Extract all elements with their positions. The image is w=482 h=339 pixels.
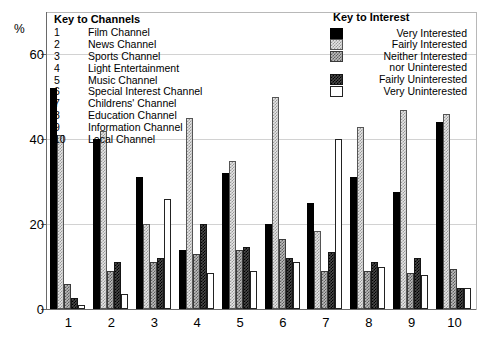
bar-4-series-0 xyxy=(179,250,186,309)
bar-10-series-3 xyxy=(457,288,464,309)
y-tick-label-0: 0 xyxy=(10,302,44,317)
bar-4-series-4 xyxy=(207,273,214,309)
bar-7-series-2 xyxy=(321,271,328,309)
x-tick-label-6: 6 xyxy=(263,315,303,330)
bar-6-series-3 xyxy=(286,258,293,309)
x-tick-label-7: 7 xyxy=(306,315,346,330)
bar-chart: % 0204060 12345678910 Key to Channels 1F… xyxy=(0,0,482,339)
legend-swatch-white xyxy=(330,86,343,97)
bar-9-series-3 xyxy=(414,258,421,309)
x-tick-label-8: 8 xyxy=(349,315,389,330)
bar-1-series-1 xyxy=(57,135,64,309)
bar-1-series-3 xyxy=(71,298,78,309)
bar-6-series-2 xyxy=(279,239,286,309)
legend-swatch-mid-checker xyxy=(330,51,343,62)
bar-2-series-1 xyxy=(100,131,107,309)
key-channel-number: 4 xyxy=(54,63,88,75)
bar-8-series-2 xyxy=(364,271,371,309)
bar-10-series-0 xyxy=(436,122,443,309)
bar-3-series-4 xyxy=(164,199,171,309)
key-to-interest: Key to Interest Very InterestedFairly In… xyxy=(330,12,467,97)
bar-8-series-1 xyxy=(357,127,364,309)
key-channel-name: Light Entertainment xyxy=(88,63,179,75)
bar-8-series-3 xyxy=(371,262,378,309)
y-tick-label-60: 60 xyxy=(10,47,44,62)
bar-10-series-2 xyxy=(450,269,457,309)
bar-8-series-0 xyxy=(350,177,357,309)
bar-2-series-2 xyxy=(107,271,114,309)
bar-1-series-4 xyxy=(78,305,85,309)
bar-7-series-0 xyxy=(307,203,314,309)
x-tick-label-5: 5 xyxy=(220,315,260,330)
bar-6-series-4 xyxy=(293,262,300,309)
x-tick-label-10: 10 xyxy=(435,315,475,330)
bar-group-6 xyxy=(265,12,302,309)
key-channel-row-3: 3Sports Channel xyxy=(54,51,202,63)
key-to-channels-title: Key to Channels xyxy=(54,14,202,26)
y-tick-label-40: 40 xyxy=(10,132,44,147)
bar-7-series-3 xyxy=(328,252,335,309)
bar-3-series-2 xyxy=(150,262,157,309)
y-axis-tick-labels: 0204060 xyxy=(10,0,44,339)
key-channel-row-10: 10Local Channel xyxy=(54,134,202,146)
key-channel-name: News Channel xyxy=(88,39,156,51)
key-channel-name: Sports Channel xyxy=(88,51,160,63)
key-interest-row-5: Very Uninterested xyxy=(330,86,467,98)
bar-8-series-4 xyxy=(378,267,385,309)
bar-6-series-0 xyxy=(265,224,272,309)
bar-2-series-4 xyxy=(121,294,128,309)
bar-4-series-1 xyxy=(186,118,193,309)
x-tick-label-3: 3 xyxy=(134,315,174,330)
bar-9-series-1 xyxy=(400,110,407,309)
legend-swatch-light-dotted xyxy=(330,39,343,50)
bar-5-series-1 xyxy=(229,161,236,310)
key-channel-name: Local Channel xyxy=(88,134,155,146)
key-channel-number: 3 xyxy=(54,51,88,63)
bar-4-series-2 xyxy=(193,254,200,309)
bar-10-series-1 xyxy=(443,114,450,309)
bar-9-series-4 xyxy=(421,275,428,309)
bar-4-series-3 xyxy=(200,224,207,309)
legend-swatch-dark-checker xyxy=(330,74,343,85)
bar-5-series-3 xyxy=(243,247,250,309)
key-channel-number: 2 xyxy=(54,39,88,51)
bar-1-series-2 xyxy=(64,284,71,309)
key-channel-row-4: 4Light Entertainment xyxy=(54,63,202,75)
x-tick-label-4: 4 xyxy=(177,315,217,330)
bar-5-series-4 xyxy=(250,271,257,309)
key-channel-number: 10 xyxy=(54,134,88,146)
bar-3-series-1 xyxy=(143,224,150,309)
key-channel-row-2: 2News Channel xyxy=(54,39,202,51)
bar-2-series-0 xyxy=(93,139,100,309)
legend-swatch-solid-black xyxy=(330,28,343,39)
bar-5-series-0 xyxy=(222,173,229,309)
plot-right-border xyxy=(476,12,477,310)
x-tick-label-2: 2 xyxy=(91,315,131,330)
bar-3-series-3 xyxy=(157,258,164,309)
legend-label: Very Uninterested xyxy=(349,86,467,98)
bar-9-series-2 xyxy=(407,273,414,309)
bar-6-series-1 xyxy=(272,97,279,309)
bar-10-series-4 xyxy=(464,288,471,309)
key-to-interest-rows: Very InterestedFairly InterestedNeither … xyxy=(330,28,467,98)
key-interest-row-4: Fairly Uninterested xyxy=(330,74,467,86)
key-to-interest-title: Key to Interest xyxy=(333,12,467,24)
bar-7-series-1 xyxy=(314,231,321,309)
bar-5-series-2 xyxy=(236,250,243,309)
bar-9-series-0 xyxy=(393,192,400,309)
bar-7-series-4 xyxy=(335,139,342,309)
bar-group-5 xyxy=(222,12,259,309)
legend-swatch-spacer xyxy=(330,62,343,73)
y-tick-label-20: 20 xyxy=(10,217,44,232)
bar-2-series-3 xyxy=(114,262,121,309)
x-axis-line xyxy=(46,309,476,310)
key-to-channels: Key to Channels 1Film Channel2News Chann… xyxy=(54,14,202,146)
legend-label: Fairly Uninterested xyxy=(349,74,467,86)
x-tick-label-1: 1 xyxy=(48,315,88,330)
key-to-channels-rows: 1Film Channel2News Channel3Sports Channe… xyxy=(54,27,202,146)
x-tick-label-9: 9 xyxy=(392,315,432,330)
bar-3-series-0 xyxy=(136,177,143,309)
